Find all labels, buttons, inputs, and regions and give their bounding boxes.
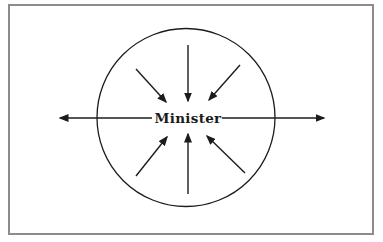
diagram-canvas: Minister bbox=[0, 0, 383, 242]
diagram-page: Minister bbox=[0, 0, 383, 242]
center-label: Minister bbox=[155, 110, 223, 126]
